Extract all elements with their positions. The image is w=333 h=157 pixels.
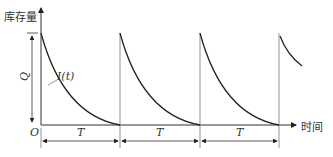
period-label-1: T	[77, 126, 84, 139]
period-label-3: T	[236, 126, 243, 139]
inventory-curve-2	[120, 33, 200, 125]
inventory-curve-3	[200, 33, 279, 125]
period-label-2: T	[156, 126, 163, 139]
curve-label: I(t)	[57, 70, 74, 83]
diagram-canvas	[0, 0, 333, 157]
inventory-curve-4-partial	[280, 36, 302, 66]
inventory-cycle-diagram: 库存量 时间 O Q I(t) T T T	[0, 0, 333, 157]
origin-label: O	[30, 126, 39, 139]
x-axis-label: 时间	[301, 118, 323, 134]
y-axis-label: 库存量	[4, 8, 37, 24]
q-label: Q	[18, 72, 31, 81]
inventory-curve-1	[41, 33, 120, 125]
